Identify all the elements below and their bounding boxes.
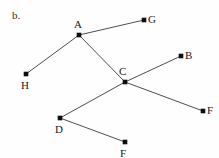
node-label-f1: F bbox=[207, 105, 213, 116]
node-dot-g[interactable] bbox=[142, 18, 147, 23]
node-label-h: H bbox=[21, 80, 29, 91]
graph-figure: b. AGHCBFDF bbox=[0, 0, 219, 158]
node-label-b: B bbox=[185, 50, 192, 61]
node-dot-a[interactable] bbox=[77, 33, 82, 38]
edge-d-f2 bbox=[60, 118, 125, 142]
node-dot-f1[interactable] bbox=[201, 109, 206, 114]
node-label-d: D bbox=[55, 124, 63, 135]
node-dot-d[interactable] bbox=[58, 116, 63, 121]
edge-a-g bbox=[79, 20, 144, 35]
node-label-a: A bbox=[74, 19, 82, 30]
node-label-c: C bbox=[119, 66, 126, 77]
edge-c-d bbox=[60, 82, 125, 118]
node-dot-c[interactable] bbox=[123, 80, 128, 85]
node-label-f2: F bbox=[120, 148, 126, 158]
node-label-g: G bbox=[148, 14, 156, 25]
graph-canvas bbox=[0, 0, 219, 158]
node-dot-f2[interactable] bbox=[123, 140, 128, 145]
edge-c-b bbox=[125, 56, 181, 82]
edge-a-h bbox=[26, 35, 79, 74]
edges-group bbox=[26, 20, 203, 142]
node-dot-h[interactable] bbox=[24, 72, 29, 77]
nodes-group bbox=[24, 18, 206, 145]
node-dot-b[interactable] bbox=[179, 54, 184, 59]
edge-c-f1 bbox=[125, 82, 203, 111]
